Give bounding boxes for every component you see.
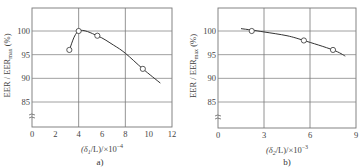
data-point-marker [95, 33, 100, 38]
y-tick-label: 90 [208, 73, 217, 83]
data-curve [241, 29, 345, 56]
x-tick-label: 9 [354, 130, 358, 140]
x-tick-label: 0 [216, 130, 220, 140]
chart-caption: b) [283, 157, 291, 167]
x-tick-label: 0 [30, 129, 34, 139]
y-tick-label: 85 [22, 97, 31, 107]
x-tick-label: 4 [77, 129, 82, 139]
y-axis-label: EER / EERmax (%) [2, 33, 13, 97]
chart-a: 859095100024681012EER / EERmax (%)(δ1/L)… [2, 8, 176, 167]
x-tick-label: 10 [144, 129, 153, 139]
data-curve [69, 30, 160, 83]
x-tick-label: 6 [100, 129, 104, 139]
y-tick-label: 85 [208, 97, 217, 107]
chart-caption: a) [97, 157, 104, 167]
data-point-marker [249, 28, 254, 33]
y-tick-label: 100 [203, 26, 216, 36]
y-tick-label: 100 [17, 26, 30, 36]
x-tick-label: 6 [308, 130, 312, 140]
figure: 859095100024681012EER / EERmax (%)(δ1/L)… [0, 0, 360, 168]
data-point-marker [140, 66, 145, 71]
plot-frame [32, 8, 172, 127]
y-tick-label: 90 [22, 73, 31, 83]
x-tick-label: 3 [262, 130, 266, 140]
x-axis-label: (δ2/L)/×10−3 [266, 144, 308, 156]
x-tick-label: 8 [123, 129, 127, 139]
data-point-marker [330, 47, 335, 52]
x-tick-label: 12 [168, 129, 177, 139]
y-tick-label: 95 [22, 50, 31, 60]
x-tick-label: 2 [53, 129, 57, 139]
plot-frame [218, 8, 356, 128]
data-point-marker [67, 47, 72, 52]
data-point-marker [76, 28, 81, 33]
y-axis-label: EER / EERmax (%) [188, 34, 199, 98]
chart-b: 8590951000369EER / EERmax (%)(δ2/L)/×10−… [188, 8, 358, 167]
data-point-marker [301, 38, 306, 43]
x-axis-label: (δ1/L)/×10−4 [81, 143, 123, 155]
y-tick-label: 95 [208, 50, 217, 60]
